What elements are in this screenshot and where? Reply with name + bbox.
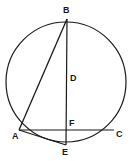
vertex-label-a: A	[12, 132, 19, 141]
vertex-label-e: E	[62, 148, 68, 157]
segment-ba	[19, 19, 67, 130]
segment-ae	[19, 130, 66, 145]
geometry-figure: B D F A C E	[0, 0, 131, 161]
vertex-label-f: F	[69, 119, 75, 128]
geometry-canvas	[0, 0, 131, 161]
vertex-label-d: D	[70, 74, 77, 83]
segment-be	[66, 19, 67, 145]
vertex-label-c: C	[116, 130, 123, 139]
vertex-label-b: B	[63, 6, 70, 15]
